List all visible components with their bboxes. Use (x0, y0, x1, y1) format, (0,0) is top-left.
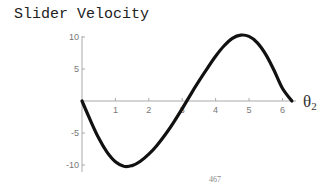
x-tick-label: 1 (113, 105, 118, 115)
y-tick-label: 10 (69, 32, 79, 42)
x-tick-label: 6 (280, 105, 285, 115)
x-tick-label: 5 (246, 105, 251, 115)
x-axis-label: θ2 (303, 92, 317, 112)
y-tick-label: 5 (74, 64, 79, 74)
y-tick-label: -5 (71, 128, 79, 138)
x-tick-label: 2 (146, 105, 151, 115)
page-number: 467 (209, 175, 221, 184)
y-tick-label: -10 (66, 160, 79, 170)
chart-plot: 105-5-10 123456 θ2 467 (0, 0, 332, 184)
x-tick-label: 4 (213, 105, 218, 115)
